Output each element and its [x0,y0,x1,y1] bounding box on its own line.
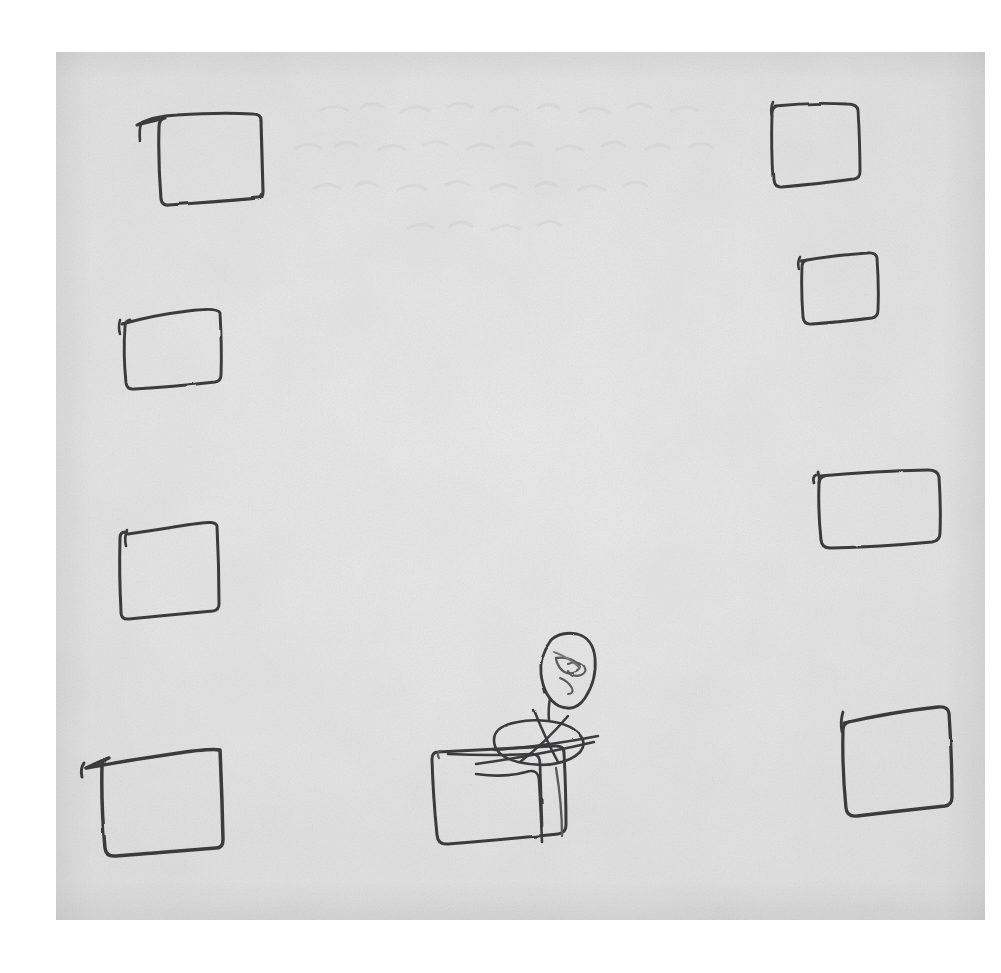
square-mid-right [813,470,940,548]
figure-neck [549,698,550,720]
square-top-left [137,113,263,205]
sketch-photo-canvas: Hand-drawn squares surrounding a seated … [0,0,1001,973]
figure-head [541,633,596,708]
figure-torso-oval [494,720,584,765]
square-mid-left [120,522,219,619]
reverse-side-bleedthrough [56,52,985,920]
square-bottom-left [81,750,223,857]
square-top-right [771,102,860,187]
paper-grain-texture [56,52,985,920]
square-upper-right [798,253,878,324]
sheet-of-paper [56,52,985,920]
seated-figure [432,633,598,844]
square-upper-left [119,309,221,389]
pen-drawing [56,52,985,920]
square-bottom-right [841,707,952,816]
figure-face-detail [554,652,585,694]
figure-box [432,746,566,844]
paper-edge-shading [56,52,985,920]
figure-arms [476,710,598,764]
